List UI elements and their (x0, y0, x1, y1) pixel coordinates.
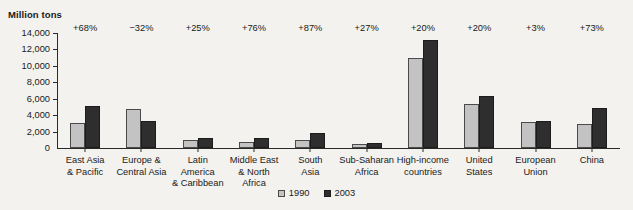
chart-legend: 1990 2003 (0, 188, 633, 198)
bar-2003 (85, 106, 100, 148)
bar-pair (464, 33, 494, 148)
category-label-line: East Asia (66, 155, 105, 167)
category-label-line: Latin (172, 155, 224, 167)
category-label-line: America (172, 167, 224, 179)
bar-2003 (536, 121, 551, 148)
group-change-annotation: +3% (526, 23, 545, 33)
x-axis-category-label: Europe &Central Asia (116, 155, 166, 178)
bar-1990 (408, 58, 423, 148)
category-label-line: South (298, 155, 322, 167)
x-axis-category-label: Sub-SaharanAfrica (339, 155, 394, 178)
category-label-line: Union (515, 167, 555, 179)
bar-2003 (367, 143, 382, 148)
bar-pair (239, 33, 269, 148)
bar-group: +25%LatinAmerica& Caribbean (170, 33, 226, 148)
category-label-line: Asia (298, 167, 322, 179)
category-label-line: China (580, 155, 604, 167)
y-axis-tick-label: 14,000 (6, 29, 50, 38)
category-label-line: Europe & (116, 155, 166, 167)
bar-group: +76%Middle East& NorthAfrica (226, 33, 282, 148)
bar-1990 (126, 109, 141, 148)
x-axis-tick-mark (310, 148, 311, 152)
legend-label-1990: 1990 (289, 188, 310, 198)
y-axis-tick-label: 6,000 (6, 94, 50, 103)
y-axis-tick-label: 10,000 (6, 61, 50, 70)
bar-2003 (310, 133, 325, 148)
x-axis-tick-mark (254, 148, 255, 152)
y-axis-tick-label: 8,000 (6, 78, 50, 87)
x-axis-category-label: SouthAsia (298, 155, 322, 178)
bar-2003 (423, 40, 438, 148)
bar-group: +20%High-incomecountries (395, 33, 451, 148)
bar-pair (183, 33, 213, 148)
x-axis-category-label: EuropeanUnion (515, 155, 555, 178)
bar-2003 (198, 138, 213, 148)
category-label-line: European (515, 155, 555, 167)
category-label-line: States (466, 167, 493, 179)
category-label-line: United (466, 155, 493, 167)
category-label-line: Sub-Saharan (339, 155, 394, 167)
legend-swatch-1990 (278, 190, 285, 197)
x-axis-category-label: UnitedStates (466, 155, 493, 178)
group-change-annotation: +20% (411, 23, 435, 33)
group-change-annotation: +87% (298, 23, 322, 33)
bar-2003 (479, 96, 494, 148)
x-axis-tick-mark (197, 148, 198, 152)
category-label-line: High-income (397, 155, 449, 167)
y-axis-tick-label: 2,000 (6, 127, 50, 136)
bar-group: +68%East Asia& Pacific (57, 33, 113, 148)
bar-1990 (70, 123, 85, 148)
category-label-line: & Pacific (66, 167, 105, 179)
y-axis-tick-label: 12,000 (6, 45, 50, 54)
x-axis-tick-mark (85, 148, 86, 152)
x-axis-category-label: China (580, 155, 604, 167)
legend-swatch-2003 (324, 190, 331, 197)
x-axis-tick-mark (591, 148, 592, 152)
bar-group: +87%SouthAsia (282, 33, 338, 148)
category-label-line: Middle East (230, 155, 279, 167)
bar-2003 (254, 138, 269, 148)
x-axis-tick-mark (479, 148, 480, 152)
bar-pair (295, 33, 325, 148)
bar-1990 (183, 140, 198, 148)
y-axis-tick-label: 4,000 (6, 111, 50, 120)
category-label-line: & North (230, 167, 279, 179)
group-change-annotation: +25% (186, 23, 210, 33)
bar-1990 (239, 142, 254, 148)
bar-group: +73%China (564, 33, 620, 148)
bar-pair (521, 33, 551, 148)
bar-pair (70, 33, 100, 148)
group-change-annotation: +20% (467, 23, 491, 33)
legend-item-1990: 1990 (278, 188, 310, 198)
bar-chart: Million tons 14,00012,00010,0008,0006,00… (0, 0, 633, 210)
bar-1990 (521, 122, 536, 148)
x-axis-tick-mark (535, 148, 536, 152)
bar-pair (126, 33, 156, 148)
group-change-annotation: +73% (580, 23, 604, 33)
plot-area: 14,00012,00010,0008,0006,0004,0002,0000 … (57, 33, 620, 148)
category-label-line: Central Asia (116, 167, 166, 179)
legend-item-2003: 2003 (324, 188, 356, 198)
bar-group: +20%UnitedStates (451, 33, 507, 148)
bar-pair (352, 33, 382, 148)
bar-1990 (352, 144, 367, 148)
x-axis-tick-mark (366, 148, 367, 152)
category-label-line: Africa (339, 167, 394, 179)
x-axis-category-label: Middle East& NorthAfrica (230, 155, 279, 190)
bar-pair (408, 33, 438, 148)
x-axis-category-label: High-incomecountries (397, 155, 449, 178)
bar-group: −32%Europe &Central Asia (113, 33, 169, 148)
x-axis-category-label: LatinAmerica& Caribbean (172, 155, 224, 190)
bar-1990 (295, 140, 310, 148)
bar-group: +27%Sub-SaharanAfrica (339, 33, 395, 148)
group-change-annotation: +27% (355, 23, 379, 33)
y-axis-tick-label: 0 (6, 144, 50, 153)
group-change-annotation: +76% (242, 23, 266, 33)
group-change-annotation: −32% (129, 23, 153, 33)
x-axis-tick-mark (422, 148, 423, 152)
bar-2003 (592, 108, 607, 148)
bar-group: +3%EuropeanUnion (507, 33, 563, 148)
legend-label-2003: 2003 (335, 188, 356, 198)
x-axis-tick-mark (141, 148, 142, 152)
x-axis-category-label: East Asia& Pacific (66, 155, 105, 178)
